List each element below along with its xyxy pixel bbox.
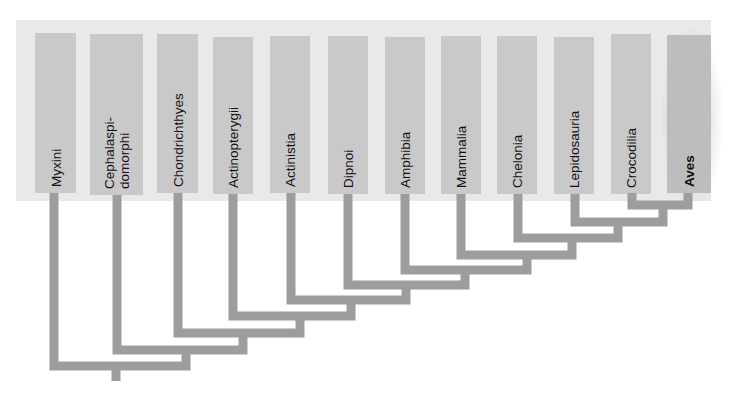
cladogram-branches: [0, 0, 739, 402]
branch-crocodilia-aves: [632, 193, 688, 205]
branch-chelonia: [518, 194, 618, 238]
